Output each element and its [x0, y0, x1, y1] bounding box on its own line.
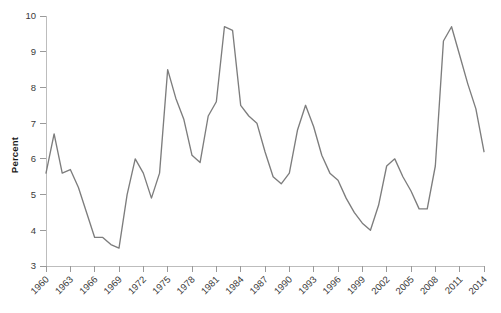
x-tick-label: 2008: [418, 274, 441, 297]
chart-container: 345678910 Percent 1960196319661969197219…: [0, 0, 501, 313]
x-axis-ticks: 1960196319661969197219751978198119841987…: [28, 266, 489, 296]
y-tick-label: 3: [31, 260, 36, 271]
y-tick-label: 5: [31, 189, 36, 200]
x-tick-label: 2005: [393, 274, 416, 297]
x-tick-label: 1990: [272, 274, 295, 297]
y-tick-label: 10: [25, 10, 36, 21]
x-tick-label: 2002: [369, 274, 392, 297]
x-tick-label: 1966: [77, 274, 100, 297]
x-tick-label: 1963: [53, 274, 76, 297]
y-tick-label: 9: [31, 46, 36, 57]
x-tick-label: 2014: [466, 274, 489, 297]
x-tick-label: 1969: [101, 274, 124, 297]
y-axis-group: 345678910 Percent: [9, 10, 46, 271]
x-axis-group: 1960196319661969197219751978198119841987…: [28, 266, 489, 296]
unemployment-line-chart: 345678910 Percent 1960196319661969197219…: [0, 0, 501, 313]
y-tick-label: 7: [31, 118, 36, 129]
plot-area: [46, 27, 484, 248]
x-tick-label: 1981: [199, 274, 222, 297]
x-tick-label: 1975: [150, 274, 173, 297]
x-tick-label: 1996: [320, 274, 343, 297]
x-tick-label: 1999: [345, 274, 368, 297]
x-tick-label: 1978: [174, 274, 197, 297]
y-axis-ticks: 345678910: [25, 10, 46, 271]
x-tick-label: 2011: [442, 274, 464, 296]
y-tick-label: 8: [31, 82, 36, 93]
y-tick-label: 4: [31, 225, 36, 236]
x-tick-label: 1960: [28, 274, 51, 297]
y-tick-label: 6: [31, 153, 36, 164]
x-tick-label: 1987: [247, 274, 270, 297]
x-tick-label: 1984: [223, 274, 246, 297]
line-series-unemployment-rate: [46, 27, 484, 248]
y-axis-label: Percent: [9, 136, 20, 173]
x-tick-label: 1972: [126, 274, 149, 297]
x-tick-label: 1993: [296, 274, 319, 297]
